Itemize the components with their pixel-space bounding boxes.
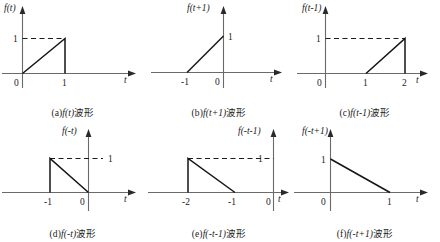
x-axis-label: t bbox=[270, 74, 273, 84]
y-tick-1: 1 bbox=[228, 32, 233, 42]
y-axis-arrow-icon bbox=[271, 129, 277, 137]
panel-b: f(t+1) t 1 -1 0 (b)f(t+1)波形 bbox=[146, 0, 292, 121]
caption-suffix: 波形 bbox=[370, 108, 390, 118]
panel-e-caption: (e)f(-t-1)波形 bbox=[146, 226, 292, 240]
panel-c: f(t-1) t 1 0 1 2 (c)f(t-1)波形 bbox=[292, 0, 438, 121]
y-axis-label: f(t-1) bbox=[302, 3, 322, 14]
x-tick-minus1: -1 bbox=[228, 197, 236, 207]
caption-suffix: 波形 bbox=[74, 108, 94, 118]
caption-prefix: (c) bbox=[339, 108, 350, 118]
caption-prefix: (a) bbox=[51, 108, 62, 118]
caption-prefix: (b) bbox=[192, 108, 203, 118]
caption-function: f(t+1) bbox=[203, 108, 226, 118]
caption-function: f(t) bbox=[62, 108, 74, 118]
x-tick-1: 1 bbox=[62, 78, 67, 88]
y-tick-1: 1 bbox=[258, 154, 263, 164]
panel-c-caption: (c)f(t-1)波形 bbox=[292, 105, 438, 119]
panel-b-plot: f(t+1) t 1 -1 0 bbox=[146, 0, 292, 100]
x-tick-0: 0 bbox=[317, 78, 322, 88]
y-tick-1: 1 bbox=[108, 154, 113, 164]
x-tick-2: 2 bbox=[402, 78, 407, 88]
panel-a-caption: (a)f(t)波形 bbox=[0, 105, 146, 119]
caption-prefix: (e) bbox=[192, 229, 203, 239]
y-axis-arrow-icon bbox=[221, 6, 227, 14]
x-axis-label: t bbox=[124, 75, 127, 85]
panel-a-plot: f(t) t 1 0 1 bbox=[0, 0, 146, 100]
caption-function: f(t-1) bbox=[350, 108, 370, 118]
waveform-curve bbox=[50, 159, 89, 193]
x-tick-1: 1 bbox=[363, 78, 368, 88]
waveform-curve bbox=[187, 36, 224, 73]
x-tick-0: 0 bbox=[321, 197, 326, 207]
caption-suffix: 波形 bbox=[226, 108, 246, 118]
x-axis-arrow-icon bbox=[128, 71, 136, 77]
y-axis-label: f(t) bbox=[4, 3, 16, 14]
x-axis-label: t bbox=[124, 194, 127, 204]
caption-prefix: (d) bbox=[50, 229, 61, 239]
caption-suffix: 波形 bbox=[373, 229, 393, 239]
x-axis-label: t bbox=[416, 194, 419, 204]
panel-d: f(-t) t 1 -1 0 (d)f(-t)波形 bbox=[0, 121, 146, 242]
waveform-curve bbox=[188, 159, 235, 193]
waveform-curve bbox=[331, 159, 391, 193]
caption-function: f(-t+1) bbox=[346, 229, 373, 239]
y-tick-1: 1 bbox=[321, 155, 326, 165]
y-axis-arrow-icon bbox=[328, 129, 334, 137]
x-axis-arrow-icon bbox=[420, 190, 428, 196]
panel-b-caption: (b)f(t+1)波形 bbox=[146, 105, 292, 119]
x-axis-label: t bbox=[278, 194, 281, 204]
x-tick-0: 0 bbox=[80, 197, 85, 207]
waveform-curve bbox=[23, 39, 66, 74]
y-axis-label: f(-t+1) bbox=[302, 126, 328, 137]
x-axis-label: t bbox=[416, 75, 419, 85]
x-tick-0: 0 bbox=[266, 197, 271, 207]
x-tick-minus2: -2 bbox=[182, 197, 190, 207]
panel-c-plot: f(t-1) t 1 0 1 2 bbox=[292, 0, 438, 100]
panel-f-plot: f(-t+1) t 1 0 1 bbox=[292, 121, 438, 221]
x-tick-1: 1 bbox=[387, 197, 392, 207]
x-tick-minus1: -1 bbox=[44, 197, 52, 207]
y-tick-1: 1 bbox=[316, 34, 321, 44]
y-axis-label: f(t+1) bbox=[187, 3, 210, 14]
caption-suffix: 波形 bbox=[76, 229, 96, 239]
caption-prefix: (f) bbox=[337, 229, 347, 239]
caption-suffix: 波形 bbox=[226, 229, 246, 239]
x-axis-arrow-icon bbox=[274, 70, 282, 76]
x-axis-arrow-icon bbox=[420, 71, 428, 77]
x-tick-0: 0 bbox=[14, 78, 19, 88]
caption-function: f(-t) bbox=[61, 229, 76, 239]
y-axis-label: f(-t-1) bbox=[238, 126, 261, 137]
panel-f-caption: (f)f(-t+1)波形 bbox=[292, 226, 438, 240]
x-axis-arrow-icon bbox=[281, 190, 289, 196]
x-tick-minus1: -1 bbox=[181, 77, 189, 87]
x-tick-0: 0 bbox=[215, 77, 220, 87]
y-axis-arrow-icon bbox=[323, 6, 329, 14]
y-axis-arrow-icon bbox=[20, 6, 26, 14]
panel-f: f(-t+1) t 1 0 1 (f)f(-t+1)波形 bbox=[292, 121, 438, 242]
y-axis-arrow-icon bbox=[86, 129, 92, 137]
waveform-figure-grid: f(t) t 1 0 1 (a)f(t)波形 f(t+1) t 1 bbox=[0, 0, 440, 242]
panel-d-caption: (d)f(-t)波形 bbox=[0, 226, 146, 240]
y-tick-1: 1 bbox=[13, 34, 18, 44]
waveform-curve bbox=[366, 39, 405, 74]
caption-function: f(-t-1) bbox=[203, 229, 226, 239]
panel-e-plot: f(-t-1) t 1 -2 -1 0 bbox=[146, 121, 292, 221]
panel-d-plot: f(-t) t 1 -1 0 bbox=[0, 121, 146, 221]
panel-e: f(-t-1) t 1 -2 -1 0 (e)f(-t-1)波形 bbox=[146, 121, 292, 242]
x-axis-arrow-icon bbox=[128, 190, 136, 196]
y-axis-label: f(-t) bbox=[62, 126, 77, 137]
panel-a: f(t) t 1 0 1 (a)f(t)波形 bbox=[0, 0, 146, 121]
